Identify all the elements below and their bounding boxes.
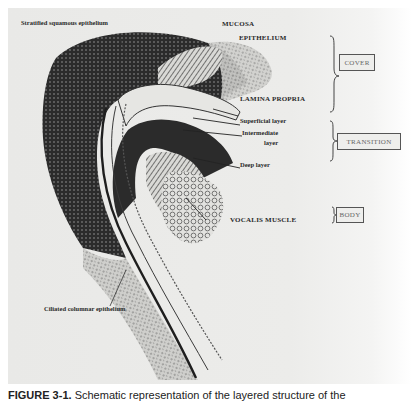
label-deep-layer: Deep layer: [240, 162, 270, 169]
vocal-fold-figure: Stratified squamous epithelium MUCOSA EP…: [8, 8, 412, 384]
label-vocalis-muscle: VOCALIS MUSCLE: [230, 217, 296, 224]
group-body-box: BODY: [336, 207, 364, 223]
figure-number: FIGURE 3-1.: [8, 389, 72, 401]
group-transition-box: TRANSITION: [337, 133, 401, 150]
label-epithelium: EPITHELIUM: [239, 35, 287, 42]
label-lamina-propria: LAMINA PROPRIA: [240, 96, 305, 103]
label-intermediate-layer-line1: Intermediate: [242, 130, 278, 137]
label-superficial-layer: Superficial layer: [240, 118, 286, 125]
label-stratified-squamous-epithelium: Stratified squamous epithelium: [21, 20, 108, 27]
label-ciliated-columnar-epithelium: Ciliated columnar epithelium: [44, 306, 126, 313]
caption-text: Schematic representation of the layered …: [75, 389, 346, 401]
label-intermediate-layer-line2: layer: [264, 140, 278, 147]
label-mucosa: MUCOSA: [222, 21, 254, 28]
figure-caption: FIGURE 3-1. Schematic representation of …: [8, 389, 412, 401]
group-cover-box: COVER: [339, 54, 375, 71]
